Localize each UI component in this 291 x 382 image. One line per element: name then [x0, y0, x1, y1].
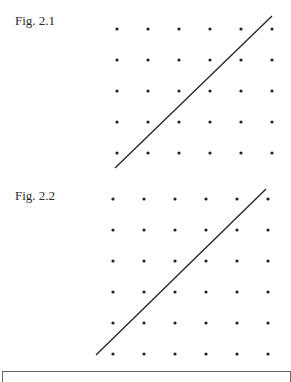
- grid-dot: [235, 228, 238, 231]
- grid-dot: [142, 259, 145, 262]
- grid-dot: [111, 352, 114, 355]
- grid-dot: [204, 259, 207, 262]
- grid-dot: [235, 290, 238, 293]
- grid-dot: [173, 197, 176, 200]
- grid-dot: [173, 290, 176, 293]
- grid-dot: [142, 352, 145, 355]
- grid-dot: [235, 321, 238, 324]
- grid-dot: [204, 290, 207, 293]
- grid-dot: [266, 321, 269, 324]
- grid-dot: [173, 259, 176, 262]
- grid-dot: [266, 352, 269, 355]
- grid-dot: [204, 228, 207, 231]
- grid-dot: [173, 352, 176, 355]
- grid-dot: [111, 321, 114, 324]
- grid-dot: [111, 259, 114, 262]
- grid-dot: [173, 321, 176, 324]
- grid-dot: [142, 197, 145, 200]
- grid-dot: [111, 197, 114, 200]
- grid-dot: [142, 228, 145, 231]
- grid-dot: [235, 352, 238, 355]
- grid-dot: [142, 290, 145, 293]
- caption-box-border: [2, 371, 291, 382]
- grid-dot: [204, 197, 207, 200]
- grid-dot: [266, 259, 269, 262]
- grid-dot: [235, 259, 238, 262]
- grid-dot: [204, 321, 207, 324]
- grid-dot: [204, 352, 207, 355]
- grid-dot: [266, 228, 269, 231]
- grid-dot: [111, 228, 114, 231]
- grid-dot: [173, 228, 176, 231]
- grid-dot: [111, 290, 114, 293]
- grid-dot: [266, 290, 269, 293]
- diagonal-line: [96, 189, 266, 355]
- grid-dot: [266, 197, 269, 200]
- grid-dot: [142, 321, 145, 324]
- grid-dot: [235, 197, 238, 200]
